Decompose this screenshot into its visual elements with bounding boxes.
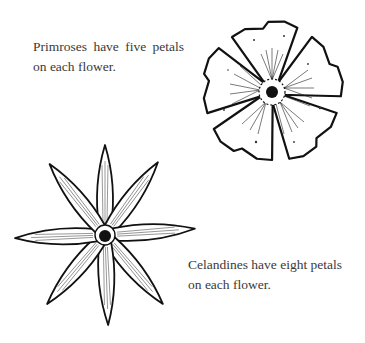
celandine-caption: Celandines have eight petals on each flo…: [188, 255, 358, 295]
primrose-caption-line-1: Primroses have five petals: [33, 37, 185, 57]
primrose-illustration: [192, 12, 352, 172]
primrose-caption-line-2: on each flower.: [33, 57, 185, 77]
celandine-caption-line-2: on each flower.: [188, 275, 358, 295]
celandine-illustration: [10, 140, 200, 330]
celandine-caption-line-1: Celandines have eight petals: [188, 255, 358, 275]
primrose-caption: Primroses have five petals on each flowe…: [33, 37, 185, 77]
